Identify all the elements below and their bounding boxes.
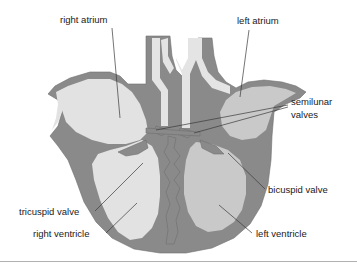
heart-diagram-figure: right atrium left atrium semilunar valve…	[0, 0, 357, 271]
label-bicuspid-valve: bicuspid valve	[268, 184, 328, 195]
heart-muscle-silhouette	[48, 36, 306, 253]
label-right-ventricle: right ventricle	[33, 228, 90, 239]
label-left-atrium: left atrium	[237, 15, 279, 26]
label-semilunar-valves-line2: valves	[291, 109, 318, 120]
label-left-ventricle: left ventricle	[256, 228, 307, 239]
label-right-atrium: right atrium	[60, 14, 108, 25]
label-tricuspid-valve: tricuspid valve	[19, 206, 79, 217]
heart-outer-wall	[48, 36, 306, 253]
label-semilunar-valves-line1: semilunar	[291, 96, 332, 107]
heart-diagram-canvas: right atrium left atrium semilunar valve…	[0, 0, 357, 271]
